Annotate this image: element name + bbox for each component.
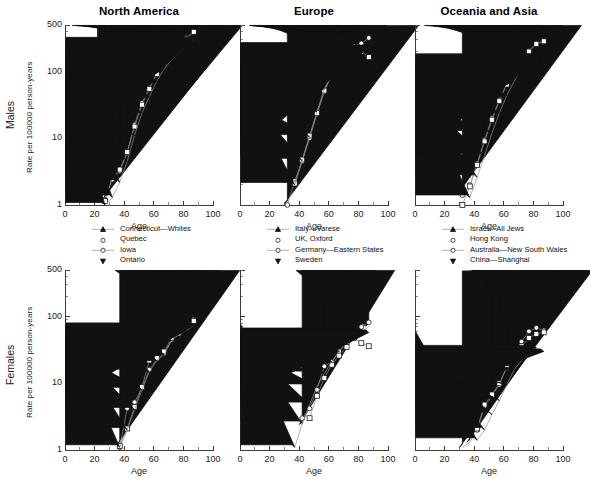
x-tick-label: 0	[53, 209, 77, 219]
legend-label: Hong Kong	[470, 234, 508, 245]
x-tick-label: 20	[433, 454, 457, 464]
legend-label: Quebec	[120, 234, 147, 245]
x-tick-label: 60	[142, 209, 166, 219]
x-tick-label: 40	[112, 209, 136, 219]
x-tick-label: 20	[83, 209, 107, 219]
x-tick-label: 80	[346, 209, 370, 219]
panel-title: North America	[65, 5, 213, 18]
y-tick-label: 10	[36, 377, 62, 387]
panel-females-oceania-and-asia: 020406080100Age	[373, 250, 581, 480]
x-tick-label: 20	[83, 454, 107, 464]
x-tick-label: 0	[228, 209, 252, 219]
y-tick-label: 1	[36, 444, 62, 454]
x-tick-label: 40	[287, 209, 311, 219]
legend-label: Ontario	[120, 255, 145, 266]
legend-label: Italy—Varese	[295, 224, 340, 235]
legend-marker-filled-triangle-down-icon	[440, 256, 466, 267]
y-tick-label: 1	[36, 199, 62, 209]
legend-marker-open-circle-icon	[90, 235, 116, 246]
legend-marker-filled-triangle-down-icon	[90, 256, 116, 267]
figure-canvas: Males Females North AmericaRate per 1000…	[0, 0, 590, 480]
y-tick-label: 500	[36, 264, 62, 274]
y-tick-label: 100	[36, 311, 62, 321]
panel-title: Oceania and Asia	[415, 5, 563, 18]
x-tick-label: 80	[171, 209, 195, 219]
x-tick-label: 60	[317, 454, 341, 464]
legend-marker-open-circle-icon	[265, 235, 291, 246]
legend-label: Israel—All Jews	[470, 224, 524, 235]
row-label-females: Females	[4, 330, 16, 400]
legend-marker-filled-triangle-up-icon	[265, 224, 291, 235]
plot-area	[415, 270, 571, 458]
x-tick-label: 40	[287, 454, 311, 464]
x-tick-label: 20	[258, 209, 282, 219]
legend-marker-filled-triangle-up-icon	[440, 224, 466, 235]
x-tick-label: 80	[521, 209, 545, 219]
legend-label: UK, Oxford	[295, 234, 333, 245]
x-tick-label: 80	[171, 454, 195, 464]
x-tick-label: 0	[228, 454, 252, 464]
y-axis-label: Rate per 100000 person-years	[25, 31, 34, 203]
legend-marker-open-circle-small-icon	[265, 245, 291, 256]
x-tick-label: 60	[317, 209, 341, 219]
legend-marker-open-circle-small-icon	[90, 245, 116, 256]
legend-marker-open-circle-small-icon	[440, 245, 466, 256]
x-tick-label: 60	[492, 209, 516, 219]
x-tick-label: 80	[521, 454, 545, 464]
x-tick-label: 40	[462, 454, 486, 464]
figure-caption	[6, 472, 584, 480]
legend-label: China—Shanghai	[470, 255, 530, 266]
x-tick-label: 20	[433, 209, 457, 219]
x-tick-label: 40	[112, 454, 136, 464]
x-tick-label: 60	[492, 454, 516, 464]
x-tick-label: 100	[551, 454, 575, 464]
panel-males-oceania-and-asia: Oceania and Asia020406080100Age	[373, 5, 581, 245]
legend-label: Connecticut—Whites	[120, 224, 191, 235]
panel-title: Europe	[240, 5, 388, 18]
y-tick-label: 500	[36, 19, 62, 29]
x-tick-label: 20	[258, 454, 282, 464]
legend-marker-open-circle-icon	[440, 235, 466, 246]
y-tick-label: 100	[36, 66, 62, 76]
x-tick-label: 40	[462, 209, 486, 219]
legend-label: Sweden	[295, 255, 322, 266]
row-label-males: Males	[4, 85, 16, 145]
y-axis-label: Rate per 100000 person-years	[25, 276, 34, 448]
x-tick-label: 80	[346, 454, 370, 464]
legend-label: Germany—Eastern States	[295, 245, 384, 256]
x-tick-label: 60	[142, 454, 166, 464]
y-tick-label: 10	[36, 132, 62, 142]
x-tick-label: 100	[551, 209, 575, 219]
legend-marker-filled-triangle-down-icon	[265, 256, 291, 267]
x-tick-label: 0	[403, 209, 427, 219]
legend-marker-filled-triangle-up-icon	[90, 224, 116, 235]
x-tick-label: 0	[53, 454, 77, 464]
legend-label: Iowa	[120, 245, 136, 256]
x-tick-label: 0	[403, 454, 427, 464]
plot-area	[415, 25, 571, 213]
legend-label: Australia—New South Wales	[470, 245, 567, 256]
